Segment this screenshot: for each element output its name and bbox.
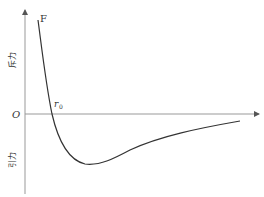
force-curve	[38, 20, 240, 164]
attraction-label: 引力	[7, 152, 17, 168]
force-diagram: F O r 0 斥力 引力	[0, 0, 264, 197]
origin-label: O	[12, 109, 20, 120]
curve-label: F	[40, 13, 47, 24]
equilibrium-subscript: 0	[59, 103, 63, 110]
repulsion-label: 斥力	[7, 52, 17, 68]
equilibrium-label: r 0	[54, 99, 63, 110]
